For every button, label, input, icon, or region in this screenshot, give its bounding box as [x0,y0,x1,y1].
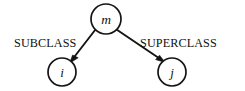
figure-root: m i j SUBCLASS SUPERCLASS [0,0,245,91]
node-m: m [91,4,121,34]
node-j: j [158,58,186,86]
node-m-label: m [101,12,111,27]
edge-label-superclass: SUPERCLASS [140,36,217,50]
node-i-label: i [60,65,64,80]
node-i: i [48,58,76,86]
edge-label-subclass: SUBCLASS [14,36,77,50]
class-hierarchy-diagram: m i j SUBCLASS SUPERCLASS [0,0,245,91]
